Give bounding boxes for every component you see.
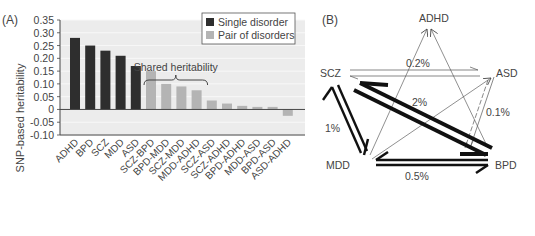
node-mdd: MDD [326,159,350,171]
shared-heritability-network-diagram: (B) ADHD ASD BPD MDD SCZ 0.2% 0.1% 2% [320,0,535,236]
node-adhd: ADHD [419,12,449,24]
bar-scz [100,51,110,110]
bar-scz-mdd [176,86,186,109]
legend-label-pair: Pair of disorders [218,29,294,41]
y-tick-label: -0.05 [30,116,54,128]
node-bpd: BPD [495,159,517,171]
bar-adhd [70,38,80,110]
bar-bpd-adhd [237,106,247,110]
bar-scz-asd [207,101,217,110]
y-tick-label: 0.25 [34,40,55,52]
y-tick-label: 0.35 [34,14,55,26]
edge-label-asd-bpd: 0.1% [486,106,510,118]
annotation-text: Shared heritability [134,61,219,73]
bar-scz-bpd [146,71,156,109]
heritability-bar-chart: (A) -0.10-0.0500.050.100.150.200.250.300… [0,0,320,236]
y-tick-label: 0 [48,103,54,115]
bar-asd-adhd [283,109,293,115]
panel-label-b: (B) [322,13,338,27]
edge-label-mdd-bpd: 0.5% [405,170,429,182]
edge-label-scz-mdd: 1% [325,122,340,134]
legend: Single disorder Pair of disorders [202,13,295,44]
bar-bpd-mdd [161,84,171,110]
y-tick-label: 0.15 [34,65,55,77]
y-tick-label: 0.05 [34,91,55,103]
y-tick-label: -0.10 [30,129,54,141]
edge-label-scz-bpd: 2% [412,96,427,108]
bar-bpd [85,46,95,110]
bar-mdd-adhd [192,90,202,109]
y-tick-labels: -0.10-0.0500.050.100.150.200.250.300.35 [30,14,54,141]
y-tick-label: 0.20 [34,52,55,64]
legend-label-single: Single disorder [218,16,289,28]
bar-scz-adhd [222,104,232,110]
y-axis-label: SNP-based heritability [14,63,26,172]
y-tick-label: 0.30 [34,27,55,39]
x-tick-labels: ADHDBPDSCZMDDASDSCZ-BPDBPD-MDDSCZ-MDDMDD… [53,137,294,183]
legend-swatch-pair [206,31,214,39]
node-scz: SCZ [320,67,342,79]
bar-mdd [116,56,126,110]
panel-label-a: (A) [2,13,18,27]
legend-swatch-single [206,18,214,26]
node-asd: ASD [496,67,518,79]
y-tick-label: 0.10 [34,78,55,90]
edge-label-scz-asd: 0.2% [406,57,430,69]
